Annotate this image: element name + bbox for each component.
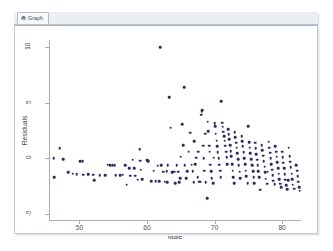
data-point (218, 163, 221, 166)
data-point (297, 181, 300, 184)
data-point (258, 176, 261, 179)
data-point (249, 152, 252, 155)
data-point (256, 164, 259, 167)
data-point (182, 144, 185, 147)
data-point (256, 158, 259, 161)
data-point (292, 183, 295, 186)
data-point (202, 144, 205, 147)
data-point (195, 157, 198, 160)
data-point (206, 197, 209, 200)
data-point (233, 131, 236, 134)
data-point (82, 173, 85, 176)
y-tick-label: 5 (15, 99, 43, 105)
data-point (254, 141, 257, 144)
data-point (244, 169, 247, 172)
data-point (160, 164, 163, 167)
data-point (224, 144, 227, 147)
data-point (278, 178, 281, 181)
data-point (52, 157, 55, 160)
data-point (263, 160, 266, 163)
data-point (206, 120, 209, 123)
data-point (181, 123, 184, 126)
data-point (285, 184, 288, 187)
data-point (225, 156, 228, 159)
data-point (246, 182, 249, 185)
data-point (279, 182, 282, 185)
data-point (231, 163, 234, 166)
y-tick-label-text: 10 (26, 42, 32, 49)
data-point (276, 161, 279, 164)
data-point (62, 158, 65, 161)
y-tick-label-text: 5 (26, 100, 32, 104)
data-point (272, 179, 275, 182)
data-point (93, 179, 96, 182)
data-point (227, 133, 230, 136)
x-tick-label: 80 (278, 225, 285, 232)
data-point (240, 135, 243, 138)
data-point (223, 135, 226, 138)
data-point (237, 158, 240, 161)
data-point (262, 154, 265, 157)
data-point (138, 148, 141, 151)
data-point (268, 147, 271, 150)
data-point (253, 182, 256, 185)
data-point (273, 183, 276, 186)
tab-graph[interactable]: Graph (17, 12, 49, 24)
data-point (192, 181, 195, 184)
data-point (158, 180, 161, 183)
data-point (267, 171, 270, 174)
data-point (92, 173, 95, 176)
data-point (222, 130, 225, 133)
data-point (236, 152, 239, 155)
data-point (269, 157, 272, 160)
data-point (261, 144, 264, 147)
data-point (131, 158, 134, 161)
data-point (236, 147, 239, 150)
data-point (183, 164, 186, 167)
data-point (207, 130, 210, 133)
data-point (194, 163, 197, 166)
data-point (248, 141, 251, 144)
data-point (283, 167, 286, 170)
data-point (152, 169, 155, 172)
data-point (229, 144, 232, 147)
data-point (185, 177, 188, 180)
window-shadow-bottom (16, 234, 320, 236)
data-point (234, 136, 237, 139)
data-point (290, 166, 293, 169)
data-point (213, 157, 216, 160)
data-point (298, 190, 301, 193)
data-point (134, 174, 137, 177)
data-point (178, 181, 181, 184)
data-point (239, 177, 242, 180)
data-point (202, 157, 205, 160)
window-shadow-right (318, 14, 320, 234)
data-point (201, 109, 204, 112)
scatter-plot: Residuals 1050-5 50607080 Male (15, 26, 317, 233)
data-point (150, 180, 153, 183)
data-point (214, 125, 217, 128)
data-point (223, 139, 226, 142)
data-point (250, 158, 253, 161)
data-point (228, 138, 231, 141)
data-point (277, 172, 280, 175)
data-point (136, 178, 139, 181)
data-point (188, 150, 191, 153)
data-point (167, 164, 170, 167)
y-tick-label: -5 (15, 210, 43, 216)
data-point (98, 174, 101, 177)
data-point (169, 126, 172, 129)
data-point (53, 176, 56, 179)
data-point (141, 178, 144, 181)
data-point (179, 155, 182, 158)
data-point (271, 174, 274, 177)
data-point (216, 145, 219, 148)
data-point (208, 150, 211, 153)
data-point (124, 164, 127, 167)
data-point (204, 133, 207, 136)
data-point (166, 181, 169, 184)
data-point (255, 153, 258, 156)
y-tick-label-text: 0 (26, 156, 32, 160)
data-point (147, 160, 150, 163)
data-point (168, 96, 171, 99)
